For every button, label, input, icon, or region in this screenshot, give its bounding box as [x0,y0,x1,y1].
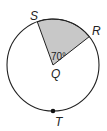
label-R: R [92,24,101,38]
label-S: S [30,9,38,23]
label-Q: Q [51,67,60,81]
label-T: T [55,115,64,129]
angle-label: 70° [51,51,66,62]
point-T-dot [51,109,56,114]
circle-diagram: S R Q T 70° [0,0,107,131]
